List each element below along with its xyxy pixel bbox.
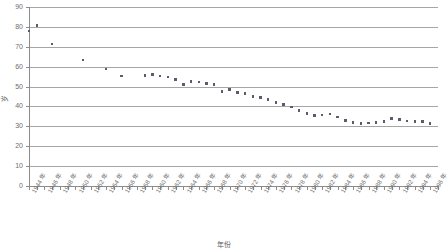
data-point: [375, 121, 377, 123]
data-point: [144, 74, 146, 76]
gridline: [29, 146, 438, 147]
data-point: [120, 75, 122, 77]
data-point: [414, 120, 416, 122]
y-axis-tick-label: 60: [2, 63, 23, 70]
y-axis-tick-label: 90: [2, 3, 23, 10]
gridline: [29, 87, 438, 88]
x-axis-tick-label: 1958 年: [139, 172, 155, 194]
x-axis-tick-label: 1956 年: [124, 172, 140, 194]
data-point: [321, 114, 323, 116]
data-point: [213, 83, 215, 85]
data-point: [167, 76, 169, 78]
data-point: [398, 118, 400, 120]
data-point: [205, 82, 207, 84]
x-axis-tick-label: 1978 年: [294, 172, 310, 194]
data-point: [298, 109, 300, 111]
data-point: [82, 59, 84, 61]
data-point: [174, 78, 176, 80]
data-point: [306, 112, 308, 114]
x-axis-tick-label: 1950 年: [78, 172, 94, 194]
x-axis-tick-mark: [291, 187, 292, 190]
x-axis-tick-label: 1964 年: [186, 172, 202, 194]
x-axis-tick-label: 1982 年: [324, 172, 340, 194]
x-axis-tick-label: 1946 年: [47, 172, 63, 194]
data-point: [421, 120, 423, 122]
data-point: [390, 117, 392, 119]
data-point: [429, 122, 431, 124]
x-axis-tick-label: 1952 年: [93, 172, 109, 194]
gridline: [29, 27, 438, 28]
data-point: [290, 106, 292, 108]
data-point: [344, 119, 346, 121]
x-axis-tick-label: 1968 年: [216, 172, 232, 194]
data-point: [28, 30, 30, 32]
data-point: [282, 103, 284, 105]
gridline: [29, 126, 438, 127]
x-axis-tick-label: 1984 年: [340, 172, 356, 194]
data-point: [190, 80, 192, 82]
data-point: [105, 68, 107, 70]
data-point: [244, 92, 246, 94]
gridline: [29, 67, 438, 68]
data-point: [352, 121, 354, 123]
x-axis-tick-label: 1954 年: [108, 172, 124, 194]
data-point: [336, 116, 338, 118]
x-axis-tick-label: 1990 年: [386, 172, 402, 194]
y-axis-tick-label: 70: [2, 43, 23, 50]
x-axis-tick-label: 1980 年: [309, 172, 325, 194]
data-point: [329, 113, 331, 115]
data-point: [406, 120, 408, 122]
x-axis-tick-mark: [399, 187, 400, 190]
x-axis-title: 年份: [0, 239, 448, 249]
x-axis-tick-label: 1996 年: [432, 172, 448, 194]
x-axis-tick-label: 1988 年: [371, 172, 387, 194]
x-axis-tick-mark: [75, 187, 76, 190]
data-point: [51, 43, 53, 45]
data-point: [182, 83, 184, 85]
gridline: [29, 7, 438, 8]
x-axis-tick-mark: [152, 187, 153, 190]
chart-canvas: 岁 01020304050607080901944 年1946 年1948 年1…: [0, 0, 448, 252]
x-axis-tick-mark: [44, 187, 45, 190]
x-axis-tick-label: 1948 年: [62, 172, 78, 194]
data-point: [159, 75, 161, 77]
x-axis-tick-label: 1974 年: [263, 172, 279, 194]
data-point: [360, 122, 362, 124]
y-axis-line: [29, 7, 30, 187]
y-axis-tick-label: 80: [2, 23, 23, 30]
x-axis-tick-label: 1960 年: [155, 172, 171, 194]
data-point: [36, 24, 38, 26]
y-axis-tick-label: 20: [2, 142, 23, 149]
x-axis-tick-label: 1966 年: [201, 172, 217, 194]
data-point: [367, 122, 369, 124]
x-axis-tick-label: 1972 年: [247, 172, 263, 194]
x-axis-tick-label: 1976 年: [278, 172, 294, 194]
x-axis-tick-label: 1992 年: [402, 172, 418, 194]
data-point: [236, 91, 238, 93]
data-point: [313, 114, 315, 116]
data-point: [275, 101, 277, 103]
y-axis-tick-label: 50: [2, 83, 23, 90]
gridline: [29, 106, 438, 107]
data-point: [198, 81, 200, 83]
data-point: [228, 88, 230, 90]
data-point: [252, 95, 254, 97]
x-axis-tick-label: 1944 年: [31, 172, 47, 194]
gridline: [29, 166, 438, 167]
x-axis-tick-mark: [183, 187, 184, 190]
data-point: [267, 98, 269, 100]
x-axis-tick-label: 1962 年: [170, 172, 186, 194]
data-point: [383, 120, 385, 122]
x-axis-tick-label: 1986 年: [355, 172, 371, 194]
y-axis-tick-label: 0: [2, 182, 23, 189]
x-axis-tick-label: 1970 年: [232, 172, 248, 194]
data-point: [259, 96, 261, 98]
y-axis-tick-label: 30: [2, 122, 23, 129]
data-point: [221, 90, 223, 92]
y-axis-tick-label: 10: [2, 162, 23, 169]
gridline: [29, 47, 438, 48]
y-axis-tick-label: 40: [2, 102, 23, 109]
data-point: [151, 73, 153, 75]
